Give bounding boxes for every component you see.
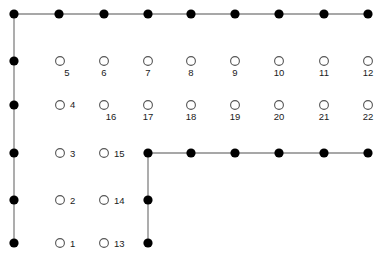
open-node[interactable]	[275, 101, 284, 110]
filled-node[interactable]	[274, 148, 283, 157]
open-node-label: 9	[232, 67, 237, 78]
open-node[interactable]	[231, 101, 240, 110]
filled-node[interactable]	[143, 238, 152, 247]
open-node-label: 10	[274, 67, 285, 78]
diagram-svg: 56789101112416171819202122315214113	[0, 0, 378, 261]
open-node-label: 16	[106, 111, 117, 122]
open-node[interactable]	[144, 57, 153, 66]
filled-node[interactable]	[9, 100, 18, 109]
open-node[interactable]	[320, 101, 329, 110]
open-node[interactable]	[231, 57, 240, 66]
filled-node[interactable]	[143, 195, 152, 204]
open-node-label: 2	[70, 195, 75, 206]
open-node-label: 1	[70, 238, 75, 249]
filled-node[interactable]	[186, 148, 195, 157]
open-node[interactable]	[100, 101, 109, 110]
open-node-label: 11	[319, 67, 329, 78]
filled-node[interactable]	[54, 9, 63, 18]
filled-node[interactable]	[319, 9, 328, 18]
filled-node[interactable]	[9, 148, 18, 157]
open-node[interactable]	[56, 57, 65, 66]
open-node[interactable]	[56, 101, 65, 110]
open-node-label: 14	[114, 195, 125, 206]
filled-node[interactable]	[186, 9, 195, 18]
open-node[interactable]	[364, 57, 373, 66]
open-node-label: 15	[114, 148, 125, 159]
filled-node[interactable]	[9, 56, 18, 65]
open-node-label: 18	[186, 111, 197, 122]
open-node[interactable]	[100, 196, 109, 205]
filled-node[interactable]	[363, 9, 372, 18]
filled-nodes-group	[9, 9, 372, 247]
open-node-label: 22	[363, 111, 374, 122]
node-labels-group: 56789101112416171819202122315214113	[64, 67, 373, 249]
open-node[interactable]	[100, 57, 109, 66]
filled-node[interactable]	[230, 9, 239, 18]
open-node[interactable]	[187, 57, 196, 66]
open-node-label: 3	[70, 148, 75, 159]
open-node-label: 7	[145, 67, 150, 78]
filled-node[interactable]	[143, 148, 152, 157]
filled-node[interactable]	[363, 148, 372, 157]
open-node[interactable]	[100, 149, 109, 158]
filled-node[interactable]	[143, 9, 152, 18]
open-node[interactable]	[364, 101, 373, 110]
filled-node[interactable]	[9, 238, 18, 247]
open-node-label: 13	[114, 238, 125, 249]
open-node-label: 4	[70, 99, 75, 110]
filled-node[interactable]	[9, 195, 18, 204]
filled-node[interactable]	[319, 148, 328, 157]
open-node[interactable]	[56, 196, 65, 205]
edges-group	[14, 14, 368, 243]
filled-node[interactable]	[9, 9, 18, 18]
open-node-label: 6	[101, 67, 106, 78]
open-node-label: 17	[143, 111, 154, 122]
filled-node[interactable]	[274, 9, 283, 18]
open-node[interactable]	[56, 239, 65, 248]
open-node[interactable]	[100, 239, 109, 248]
open-node[interactable]	[187, 101, 196, 110]
filled-node[interactable]	[99, 9, 108, 18]
open-node[interactable]	[320, 57, 329, 66]
open-node-label: 8	[188, 67, 193, 78]
open-node[interactable]	[56, 149, 65, 158]
open-node-label: 21	[319, 111, 330, 122]
open-node-label: 20	[274, 111, 285, 122]
open-node[interactable]	[275, 57, 284, 66]
filled-node[interactable]	[230, 148, 239, 157]
open-node-label: 12	[363, 67, 374, 78]
open-node-label: 5	[64, 67, 69, 78]
open-node[interactable]	[144, 101, 153, 110]
open-node-label: 19	[230, 111, 241, 122]
diagram-canvas: 56789101112416171819202122315214113	[0, 0, 378, 261]
